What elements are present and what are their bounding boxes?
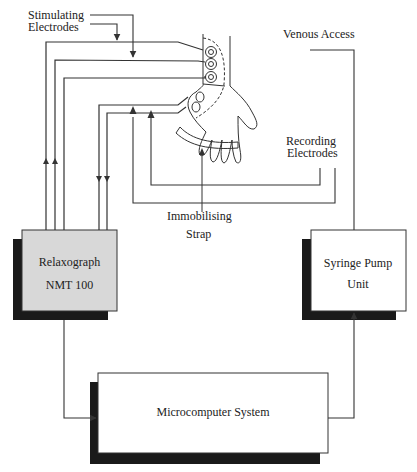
recording-wire-arrows	[96, 176, 110, 182]
stimulating-wires	[46, 42, 205, 230]
microcomputer-title: Microcomputer System	[157, 405, 271, 419]
recording-loop	[133, 117, 335, 203]
strap-arrow-icon	[199, 148, 205, 155]
relaxograph-model: NMT 100	[46, 278, 93, 292]
relaxograph-box	[22, 230, 117, 311]
strap-label-1: Immobilising	[167, 209, 232, 223]
diagram-canvas: Stimulating Electrodes	[0, 0, 417, 472]
stimulating-wire-arrows	[43, 158, 58, 164]
stimulating-label-2: Electrodes	[28, 20, 79, 34]
microcomputer-block: Microcomputer System	[90, 373, 328, 464]
relaxograph-block: Relaxograph NMT 100	[13, 230, 117, 320]
syringe-pump-box	[311, 230, 406, 311]
syringe-pump-block: Syringe Pump Unit	[302, 230, 406, 320]
microcomputer-to-syringe-arrow	[328, 313, 354, 418]
syringe-pump-title: Syringe Pump	[324, 256, 392, 270]
syringe-pump-subtitle: Unit	[347, 277, 369, 291]
strap-label-2: Strap	[186, 227, 211, 241]
recording-loop-arrows	[130, 106, 155, 118]
venous-access-label: Venous Access	[283, 27, 355, 41]
stimulating-pointers	[90, 15, 133, 57]
recording-label-2: Electrodes	[287, 146, 338, 160]
relaxograph-title: Relaxograph	[39, 255, 100, 269]
